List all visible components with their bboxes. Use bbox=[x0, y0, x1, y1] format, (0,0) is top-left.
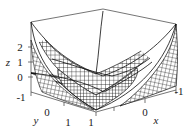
z-axis-title: z bbox=[5, 56, 11, 68]
y-axis-title: y bbox=[33, 114, 39, 126]
z-tick-label-0: 0 bbox=[17, 71, 23, 83]
surface-plot-figure: 2 1 0 z -1 0 1 y 1 0 -1 x bbox=[0, 0, 193, 129]
y-tick-label-neg1: -1 bbox=[16, 91, 25, 103]
back-top-right-edge bbox=[103, 9, 176, 24]
x-axis-title: x bbox=[153, 114, 159, 126]
back-top-left-edge bbox=[31, 9, 103, 22]
x-tick-label-1: 1 bbox=[88, 116, 94, 128]
plot-canvas: 2 1 0 z -1 0 1 y 1 0 -1 x bbox=[0, 0, 193, 129]
bowl-crest-center bbox=[96, 11, 103, 74]
z-tick-label-1: 1 bbox=[17, 56, 23, 68]
y-tick-label-1: 1 bbox=[65, 116, 71, 128]
x-tick-label-neg1: -1 bbox=[174, 85, 183, 97]
z-tick-label-2: 2 bbox=[17, 41, 23, 53]
y-tick-label-0: 0 bbox=[44, 106, 50, 118]
paraboloid-surface bbox=[31, 11, 178, 110]
x-tick-label-0: 0 bbox=[142, 106, 148, 118]
